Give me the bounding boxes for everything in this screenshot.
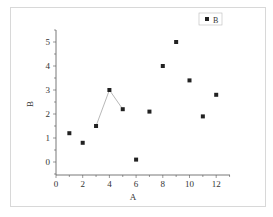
x-tick-label: 10 [185, 179, 195, 189]
data-point-square-icon [201, 114, 205, 118]
data-point-square-icon [174, 40, 178, 44]
axes: 024681012012345 [46, 30, 231, 189]
y-tick-label: 4 [46, 61, 51, 71]
x-tick-label: 12 [212, 179, 221, 189]
connecting-polyline [96, 90, 123, 126]
x-tick-label: 8 [161, 179, 166, 189]
x-tick-label: 0 [54, 179, 59, 189]
y-tick-label: 0 [46, 157, 51, 167]
data-point-square-icon [121, 107, 125, 111]
x-axis-title: A [130, 192, 137, 202]
y-axis-title: B [25, 101, 35, 107]
data-point-square-icon [94, 124, 98, 128]
scatter-chart: 024681012012345 B A B [0, 0, 273, 217]
data-point-square-icon [214, 93, 218, 97]
data-point-square-icon [188, 78, 192, 82]
data-point-square-icon [81, 141, 85, 145]
data-point-square-icon [107, 88, 111, 92]
x-tick-label: 4 [107, 179, 112, 189]
legend: B [199, 13, 222, 25]
y-tick-label: 3 [46, 85, 51, 95]
legend-marker-icon [205, 17, 209, 21]
data-point-square-icon [67, 131, 71, 135]
data-point-square-icon [134, 158, 138, 162]
data-points [67, 40, 218, 162]
x-tick-label: 6 [134, 179, 139, 189]
legend-label: B [213, 16, 218, 25]
connecting-line [96, 90, 123, 126]
data-point-square-icon [147, 110, 151, 114]
legend-box [199, 13, 222, 25]
data-point-square-icon [161, 64, 165, 68]
y-tick-label: 5 [46, 37, 51, 47]
x-tick-label: 2 [80, 179, 85, 189]
y-tick-label: 1 [46, 133, 51, 143]
y-tick-label: 2 [46, 109, 51, 119]
